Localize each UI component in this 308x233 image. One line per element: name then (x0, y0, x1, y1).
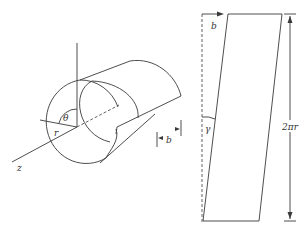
inner-cut-arc-left (80, 81, 110, 142)
theta-label: θ (63, 113, 69, 123)
gamma-angle-arc (202, 117, 215, 119)
b-arrow-left-icon (158, 136, 163, 140)
bottom-generator-line (100, 114, 155, 163)
front-face-upper-arc (80, 80, 118, 107)
right-generator-line (117, 96, 181, 127)
cylinder-figure: θ r z b (12, 43, 181, 173)
radius-line (40, 120, 77, 127)
inner-cut-arc-right (92, 81, 138, 118)
b-label-right: b (211, 21, 217, 31)
offset-step-arc (106, 129, 117, 158)
b-label-left: b (166, 135, 172, 145)
unrolled-surface-figure: b γ 2πr (202, 12, 299, 223)
front-face-circle (46, 80, 106, 163)
sheared-parallelogram (203, 14, 282, 221)
r-label: r (54, 128, 59, 138)
dislocation-diagram: θ r z b b γ 2πr (0, 0, 308, 233)
gamma-label: γ (205, 124, 211, 134)
back-face-arc (130, 60, 181, 96)
b-arrow-right-icon (175, 127, 180, 131)
circumference-label: 2πr (281, 122, 299, 132)
dim-arrow-down-icon (288, 212, 293, 219)
top-generator-line (80, 61, 130, 80)
b-offset-arrow-icon (217, 12, 224, 17)
z-axis-line (12, 127, 77, 162)
z-axis-hidden-line (77, 105, 119, 127)
dim-arrow-up-icon (288, 16, 293, 23)
z-label: z (16, 163, 22, 173)
